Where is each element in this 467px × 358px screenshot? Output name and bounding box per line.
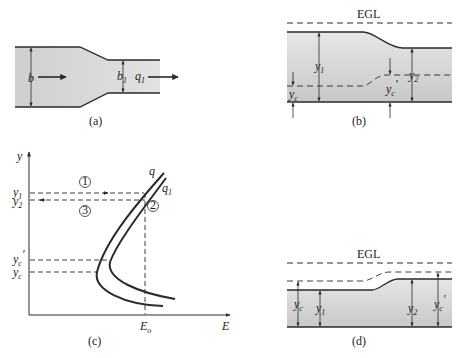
panel-c: y E q q1 y1 y2 yc′ yc Eo 1 2 3 (c) [12, 149, 230, 348]
marker-1: 1 [82, 174, 88, 188]
label-q: q [149, 164, 155, 178]
panel-d: EGL yc y1 y2 yc′ (d) [287, 247, 452, 348]
label-b: b [28, 71, 34, 85]
diagram-canvas: b b1 q1 (a) EGL y1 y2 yc yc′ (b) y E [0, 0, 467, 358]
panel-b: EGL y1 y2 yc yc′ (b) [287, 7, 452, 128]
marker-3: 3 [82, 203, 88, 217]
y-axis-label: y [16, 149, 23, 163]
panel-a: b b1 q1 (a) [15, 47, 178, 128]
marker-2: 2 [150, 198, 156, 212]
label-q1: q1 [162, 181, 172, 197]
e-axis-label: E [221, 319, 230, 333]
caption-c: (c) [88, 334, 101, 348]
caption-b: (b) [352, 114, 366, 128]
label-egl: EGL [357, 7, 380, 21]
curve-q1 [110, 178, 175, 299]
water-fill [287, 32, 452, 102]
water-fill-d [287, 279, 452, 327]
caption-d: (d) [352, 334, 366, 348]
label-egl-d: EGL [357, 247, 380, 261]
tick-eo: Eo [139, 319, 151, 335]
caption-a: (a) [89, 114, 102, 128]
